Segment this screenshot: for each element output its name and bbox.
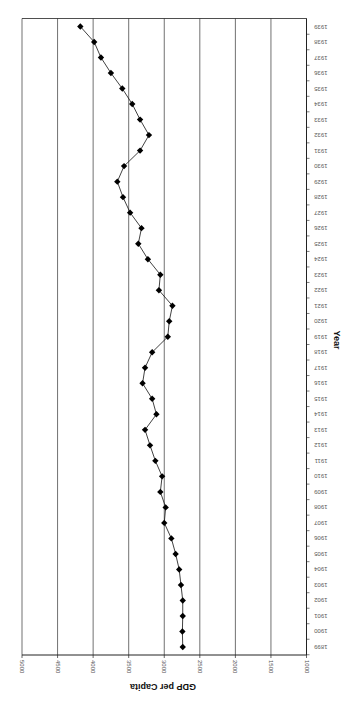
year-tick-label: 1910: [313, 473, 327, 479]
value-tick-label: 3000: [161, 660, 167, 674]
data-point-marker: [162, 504, 168, 510]
data-point-marker: [142, 365, 148, 371]
year-tick-label: 1907: [313, 520, 327, 526]
data-point-marker: [180, 613, 186, 619]
year-tick-label: 1921: [313, 303, 327, 309]
year-tick-label: 1901: [313, 613, 327, 619]
year-tick-label: 1924: [313, 256, 327, 262]
value-tick-label: 1000: [304, 660, 310, 674]
year-tick-label: 1900: [313, 628, 327, 634]
data-point-marker: [129, 101, 135, 107]
year-tick-label: 1927: [313, 210, 327, 216]
data-point-marker: [161, 520, 167, 526]
data-point-marker: [142, 427, 148, 433]
year-tick-label: 1936: [313, 70, 327, 76]
year-tick-label: 1929: [313, 179, 327, 185]
data-point-marker: [153, 411, 159, 417]
year-tick-label: 1912: [313, 442, 327, 448]
year-tick-label: 1915: [313, 396, 327, 402]
data-point-marker: [138, 225, 144, 231]
year-tick-label: 1922: [313, 287, 327, 293]
year-tick-label: 1917: [313, 365, 327, 371]
year-tick-label: 1916: [313, 380, 327, 386]
data-point-marker: [168, 535, 174, 541]
year-tick-label: 1908: [313, 504, 327, 510]
value-tick-label: 4000: [90, 660, 96, 674]
data-point-marker: [172, 551, 178, 557]
year-tick-label: 1933: [313, 117, 327, 123]
data-point-marker: [135, 240, 141, 246]
year-tick-label: 1928: [313, 194, 327, 200]
gridlines: [22, 19, 307, 656]
data-point-marker: [146, 132, 152, 138]
year-tick-label: 1903: [313, 582, 327, 588]
year-tick-label: 1904: [313, 566, 327, 572]
data-point-marker: [114, 178, 120, 184]
data-point-marker: [127, 209, 133, 215]
year-tick-label: 1931: [313, 148, 327, 154]
year-tick-label: 1913: [313, 427, 327, 433]
year-tick-label: 1938: [313, 39, 327, 45]
year-tick-label: 1932: [313, 132, 327, 138]
data-point-marker: [119, 85, 125, 91]
year-tick-label: 1909: [313, 489, 327, 495]
year-tick-label: 1923: [313, 272, 327, 278]
year-tick-label: 1930: [313, 163, 327, 169]
data-point-marker: [120, 194, 126, 200]
year-tick-label: 1935: [313, 86, 327, 92]
data-point-marker: [180, 644, 186, 650]
gdp-line-chart: 100015002000250030003500400045005000 189…: [0, 0, 351, 703]
year-tick-label: 1926: [313, 225, 327, 231]
value-tick-label: 1500: [268, 660, 274, 674]
data-point-marker: [178, 582, 184, 588]
year-tick-label: 1911: [314, 458, 328, 464]
value-axis-ticks: 100015002000250030003500400045005000: [19, 655, 310, 674]
value-axis-title: GDP per Capita: [129, 682, 196, 692]
data-point-marker: [147, 442, 153, 448]
year-tick-label: 1902: [313, 597, 327, 603]
year-tick-label: 1905: [313, 551, 327, 557]
data-point-marker: [139, 380, 145, 386]
year-axis-title: Year: [332, 330, 342, 350]
data-point-marker: [176, 566, 182, 572]
year-tick-label: 1937: [313, 55, 327, 61]
year-tick-label: 1925: [313, 241, 327, 247]
year-tick-label: 1899: [313, 644, 327, 650]
year-tick-label: 1918: [313, 349, 327, 355]
data-point-marker: [108, 70, 114, 76]
year-tick-label: 1920: [313, 318, 327, 324]
value-tick-label: 2000: [232, 660, 238, 674]
data-point-marker: [166, 318, 172, 324]
year-tick-label: 1939: [313, 24, 327, 30]
data-point-marker: [149, 396, 155, 402]
data-point-marker: [137, 116, 143, 122]
data-point-marker: [152, 458, 158, 464]
value-tick-label: 5000: [19, 660, 25, 674]
year-tick-label: 1906: [313, 535, 327, 541]
data-point-marker: [157, 489, 163, 495]
data-point-marker: [180, 597, 186, 603]
data-point-marker: [98, 54, 104, 60]
value-tick-label: 4500: [55, 660, 61, 674]
year-tick-label: 1934: [313, 101, 327, 107]
year-tick-label: 1919: [313, 334, 327, 340]
value-tick-label: 2500: [197, 660, 203, 674]
year-axis-ticks: 1899190019011902190319041905190619071908…: [307, 24, 328, 655]
data-point-marker: [179, 628, 185, 634]
value-tick-label: 3500: [126, 660, 132, 674]
year-tick-label: 1914: [313, 411, 327, 417]
